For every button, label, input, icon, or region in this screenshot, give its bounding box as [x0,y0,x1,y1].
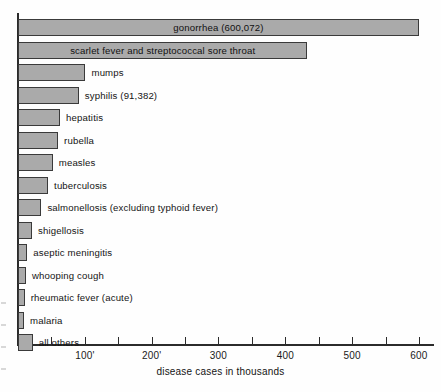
x-axis-title: disease cases in thousands [0,366,441,377]
bar [18,222,32,239]
bar-label: gonorrhea (600,072) [18,21,419,34]
bar-row: all others [18,334,441,351]
bar-label: rheumatic fever (acute) [31,291,133,304]
bar [18,289,25,306]
bar-row: gonorrhea (600,072) [18,19,441,36]
bar-row: hepatitis [18,109,441,126]
page-margin-artifact [1,324,6,326]
bar [18,87,79,104]
bar-row: measles [18,154,441,171]
bar-label: aseptic meningitis [33,246,112,259]
bar-row: rheumatic fever (acute) [18,289,441,306]
bar [18,64,85,81]
x-axis-tick-label: 100' [75,350,94,361]
bar-row: rubella [18,132,441,149]
bar-row: scarlet fever and streptococcal sore thr… [18,42,441,59]
bar [18,244,27,261]
bar-row: tuberculosis [18,177,441,194]
page-margin-artifact [1,368,6,370]
x-axis-tick-label: 400 [277,350,294,361]
page-margin-artifact [1,302,6,304]
bar [18,334,33,351]
bar-label: salmonellosis (excluding typhoid fever) [47,201,218,214]
bar-label: rubella [64,134,94,147]
bar [18,132,58,149]
x-axis-tick-label: 300 [210,350,227,361]
bar-label: tuberculosis [54,179,107,192]
bar-label: hepatitis [66,111,103,124]
bar-row: mumps [18,64,441,81]
bar-row: whooping cough [18,267,441,284]
bar-label: mumps [91,66,123,79]
page-margin-artifact [1,346,6,348]
bar-label: syphilis (91,382) [85,89,157,102]
plot-area: 100'200'300400500600 gonorrhea (600,072)… [0,0,441,392]
bar [18,177,48,194]
bar [18,267,26,284]
bar-row: syphilis (91,382) [18,87,441,104]
bar [18,199,41,216]
x-axis-tick-label: 500 [343,350,360,361]
bar-row: salmonellosis (excluding typhoid fever) [18,199,441,216]
bar-row: malaria [18,312,441,329]
bar-label: scarlet fever and streptococcal sore thr… [18,44,307,57]
bar-label: whooping cough [32,269,104,282]
x-axis-tick-label: 600 [410,350,427,361]
bar [18,109,60,126]
x-axis-tick-label: 200' [142,350,161,361]
bar-label: measles [59,156,96,169]
bar [18,154,53,171]
bar-label: malaria [30,314,63,327]
bar [18,312,24,329]
bar-label: all others [39,336,79,349]
bar-row: aseptic meningitis [18,244,441,261]
disease-cases-bar-chart: 100'200'300400500600 gonorrhea (600,072)… [0,0,441,392]
bar-label: shigellosis [38,224,84,237]
bar-row: shigellosis [18,222,441,239]
